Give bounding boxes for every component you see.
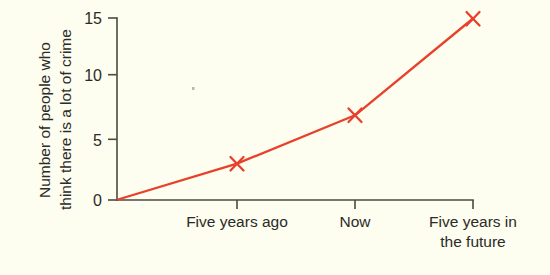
y-tick-label-0: 0 (93, 192, 102, 209)
y-axis-label-line2: think there is a lot of crime (57, 29, 74, 210)
data-point-now (349, 109, 362, 123)
x-tick-label-five-years-in-the-future-line2: the future (440, 233, 506, 250)
x-tick-label-now: Now (339, 213, 371, 230)
series-crime-perception (118, 12, 480, 200)
y-axis-label-line1: Number of people who (36, 42, 53, 198)
data-point-five-years-in-the-future (467, 12, 480, 26)
chart-container: Number of people who think there is a lo… (0, 0, 550, 275)
y-tick-label-10: 10 (84, 67, 102, 84)
y-tick-label-5: 5 (93, 132, 102, 149)
x-axis: Five years ago Now Five years in the fut… (117, 200, 517, 250)
x-tick-label-five-years-in-the-future-line1: Five years in (429, 213, 517, 230)
data-point-five-years-ago (231, 157, 244, 171)
y-axis: 15 10 5 0 (84, 10, 117, 209)
series-line-path (118, 19, 473, 200)
line-chart: Number of people who think there is a lo… (0, 0, 550, 275)
y-axis-label: Number of people who think there is a lo… (36, 29, 74, 210)
x-tick-label-five-years-ago: Five years ago (186, 213, 288, 230)
y-tick-label-15: 15 (84, 10, 102, 27)
scan-speck-artifact (192, 87, 195, 90)
